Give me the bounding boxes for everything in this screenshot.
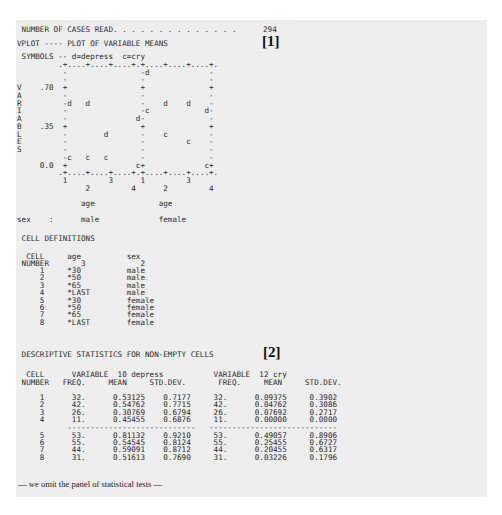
vplot-title: VPLOT ---- PLOT OF VARIABLE MEANS	[17, 39, 168, 48]
plot-line: age age	[17, 200, 218, 208]
plot-line: sex : male female	[17, 216, 218, 224]
marker-1: [1]	[262, 33, 280, 50]
marker-2: [2]	[263, 344, 281, 361]
cell-definitions-table: 1 *30 male 2 *50 male 3 *65 male 4 *LAST…	[17, 267, 154, 326]
cell-definition-row: 8 *LAST female	[17, 319, 154, 326]
table-row: 8 31. 0.51613 0.7690 31. 0.03226 0.1796	[17, 454, 337, 461]
descriptive-stats-title: DESCRIPTIVE STATISTICS FOR NON-EMPTY CEL…	[17, 350, 214, 359]
descriptive-stats-header-2: NUMBER FREQ. MEAN STD.DEV. FREQ. MEAN ST…	[17, 378, 342, 387]
variable-means-plot: SYMBOLS -- d=depress c=cry .+....+....+.…	[17, 53, 218, 224]
cell-definitions-title: CELL DEFINITIONS	[17, 234, 95, 243]
descriptive-stats-table: 1 32. 0.53125 0.7177 32. 0.09375 0.3902 …	[17, 394, 337, 461]
plot-line: 2 4 2 4	[17, 185, 218, 193]
footer-note: — we omit the panel of statistical tests…	[18, 479, 162, 489]
cases-read-label: NUMBER OF CASES READ. . . . . . . . . . …	[17, 25, 236, 34]
